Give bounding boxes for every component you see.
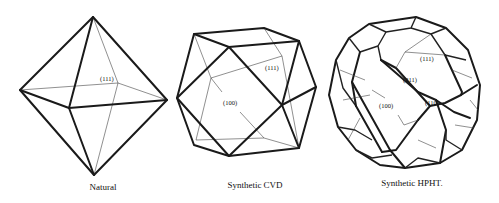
face-label: (100): [379, 102, 393, 110]
octahedron-drawing: (111): [20, 17, 167, 175]
face-label: (111): [100, 75, 114, 83]
caption-hpht: Synthetic HPHT.: [381, 178, 442, 188]
face-label: (111): [420, 55, 434, 63]
crystal-morphology-figure: (111) (111) (100): [0, 0, 499, 203]
face-label: (110): [425, 99, 439, 107]
hpht-polyhedron-drawing: (111) (211) (100) (110): [329, 17, 480, 168]
face-label: (111): [265, 64, 279, 72]
face-label: (211): [403, 76, 417, 84]
caption-natural: Natural: [90, 182, 117, 192]
face-label: (100): [223, 99, 237, 107]
caption-cvd: Synthetic CVD: [227, 180, 282, 190]
cuboctahedron-drawing: (111) (100): [177, 28, 316, 156]
